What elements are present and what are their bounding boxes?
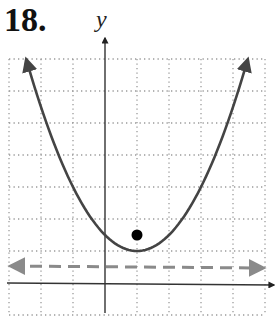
x-axis bbox=[7, 283, 274, 285]
parabola-graph bbox=[0, 0, 276, 326]
focus-point bbox=[132, 230, 143, 241]
dotted-grid bbox=[9, 59, 265, 315]
